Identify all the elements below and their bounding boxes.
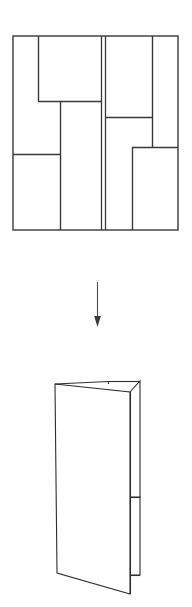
arrow-head-icon <box>94 316 101 327</box>
folded-right-panel-lower <box>130 497 140 575</box>
diagram-root: Folding pattern to folded form Unfolded … <box>0 0 192 607</box>
folded-left-panel <box>55 384 130 594</box>
transform-arrow <box>94 282 101 327</box>
folded-top-left-edge <box>55 382 109 385</box>
unfolded-crease-pattern <box>13 36 178 230</box>
folded-form <box>55 381 140 594</box>
pattern-outer-rect <box>13 36 178 230</box>
diagram-canvas <box>0 0 192 607</box>
folded-right-panel-upper <box>130 381 140 497</box>
